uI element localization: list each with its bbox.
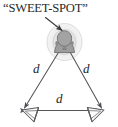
sweet-spot-diagram: “SWEET-SPOT” d d d [0, 0, 118, 127]
left-speaker-icon [20, 103, 39, 122]
listener-right-ear [71, 41, 74, 46]
sweet-spot-caption: “SWEET-SPOT” [3, 2, 88, 15]
listener-skull [57, 31, 71, 47]
listener-left-ear [55, 41, 58, 46]
left-speaker-cone [20, 103, 39, 122]
diagram-canvas [0, 0, 118, 127]
right-speaker-cone [87, 103, 106, 122]
listener-nose-icon [63, 47, 66, 49]
distance-label-right: d [83, 62, 90, 75]
distance-label-left: d [33, 62, 40, 75]
distance-label-base: d [56, 92, 63, 105]
right-speaker-icon [87, 103, 106, 122]
triangle-side-right [68, 48, 102, 109]
